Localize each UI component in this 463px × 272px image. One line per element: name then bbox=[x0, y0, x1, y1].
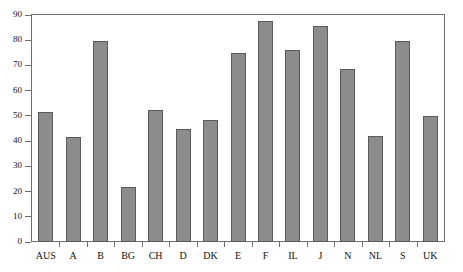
x-axis-tick bbox=[114, 242, 115, 247]
x-axis-tick bbox=[87, 242, 88, 247]
y-axis-tick-label: 90 bbox=[2, 10, 22, 19]
y-axis-tick bbox=[25, 90, 31, 91]
x-axis-tick bbox=[362, 242, 363, 247]
bar bbox=[93, 41, 108, 242]
x-axis-tick bbox=[417, 242, 418, 247]
bar bbox=[313, 26, 328, 242]
x-axis-tick bbox=[307, 242, 308, 247]
bar bbox=[66, 137, 81, 242]
bar bbox=[148, 110, 163, 242]
bar-chart: 0102030405060708090 AUSABBGCHDDKEFILJNNL… bbox=[0, 0, 463, 272]
x-axis-tick bbox=[197, 242, 198, 247]
x-axis-tick bbox=[59, 242, 60, 247]
y-axis-tick bbox=[25, 166, 31, 167]
y-axis-tick-label: 0 bbox=[2, 237, 22, 246]
x-axis-tick bbox=[142, 242, 143, 247]
x-axis-tick bbox=[169, 242, 170, 247]
y-axis-tick bbox=[25, 216, 31, 217]
y-axis-tick bbox=[25, 191, 31, 192]
x-axis-tick bbox=[224, 242, 225, 247]
y-axis-tick-label: 50 bbox=[2, 111, 22, 120]
y-axis-tick-label: 10 bbox=[2, 212, 22, 221]
bar bbox=[258, 21, 273, 242]
bar bbox=[38, 112, 53, 242]
x-axis-tick bbox=[334, 242, 335, 247]
x-axis-tick bbox=[252, 242, 253, 247]
bar bbox=[423, 116, 438, 242]
bar bbox=[203, 120, 218, 242]
bar bbox=[340, 69, 355, 242]
x-axis-tick bbox=[279, 242, 280, 247]
y-axis-tick-label: 60 bbox=[2, 86, 22, 95]
bar bbox=[121, 187, 136, 242]
y-axis-tick bbox=[25, 141, 31, 142]
x-axis-tick-label: UK bbox=[405, 250, 455, 261]
bars-layer bbox=[32, 15, 444, 242]
bar bbox=[176, 129, 191, 243]
y-axis-tick bbox=[25, 242, 31, 243]
bar bbox=[368, 136, 383, 242]
y-axis-tick-label: 20 bbox=[2, 187, 22, 196]
bar bbox=[285, 50, 300, 242]
bar bbox=[395, 41, 410, 242]
y-axis-tick bbox=[25, 15, 31, 16]
y-axis-tick bbox=[25, 115, 31, 116]
bar bbox=[231, 53, 246, 242]
y-axis-tick-label: 70 bbox=[2, 60, 22, 69]
y-axis-tick bbox=[25, 65, 31, 66]
y-axis-tick bbox=[25, 40, 31, 41]
x-axis-tick bbox=[389, 242, 390, 247]
y-axis-tick-label: 40 bbox=[2, 136, 22, 145]
y-axis: 0102030405060708090 bbox=[0, 0, 22, 272]
y-axis-tick-label: 80 bbox=[2, 35, 22, 44]
y-axis-tick-label: 30 bbox=[2, 161, 22, 170]
